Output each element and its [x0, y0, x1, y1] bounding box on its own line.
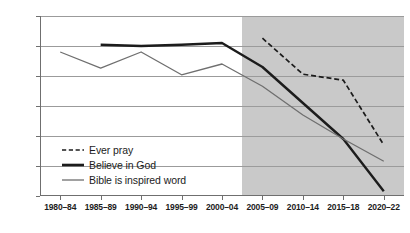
x-tick-label: 1980–84 — [37, 202, 83, 212]
x-tick-label: 1990–94 — [118, 202, 164, 212]
x-tick-mark — [262, 196, 263, 200]
legend-label: Believe in God — [89, 159, 156, 171]
x-tick-label: 2020–22 — [361, 202, 407, 212]
legend-label: Ever pray — [89, 144, 133, 156]
x-tick-label: 1985–89 — [78, 202, 124, 212]
legend-item: Bible is inspired word — [62, 172, 186, 187]
thick-line-icon — [62, 160, 84, 170]
legend-item: Ever pray — [62, 142, 186, 157]
thin-line-icon — [62, 175, 84, 185]
legend-label: Bible is inspired word — [89, 174, 186, 186]
x-tick-mark — [101, 196, 102, 200]
x-tick-mark — [303, 196, 304, 200]
legend-item: Believe in God — [62, 157, 186, 172]
x-tick-label: 2010–14 — [280, 202, 326, 212]
x-tick-label: 2015–18 — [320, 202, 366, 212]
x-tick-mark — [222, 196, 223, 200]
x-tick-mark — [182, 196, 183, 200]
line-chart: 60657075808590 1980–841985–891990–941995… — [0, 0, 410, 233]
x-tick-mark — [141, 196, 142, 200]
x-tick-mark — [384, 196, 385, 200]
series-line — [262, 38, 383, 145]
y-tick-mark — [36, 196, 40, 197]
chart-legend: Ever pray Believe in God Bible is inspir… — [62, 142, 186, 187]
x-tick-mark — [343, 196, 344, 200]
x-tick-label: 2000–04 — [199, 202, 245, 212]
x-tick-label: 1995–99 — [159, 202, 205, 212]
x-tick-mark — [60, 196, 61, 200]
dashed-line-icon — [62, 145, 84, 155]
x-tick-label: 2005–09 — [239, 202, 285, 212]
